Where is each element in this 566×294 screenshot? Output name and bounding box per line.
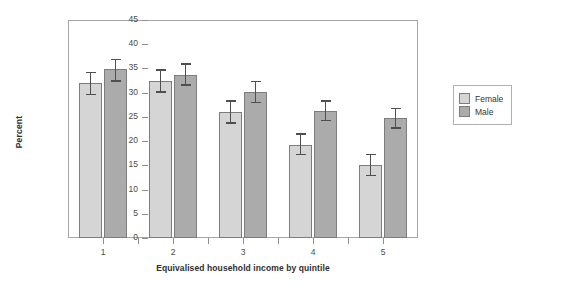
x-tick-label: 3 — [223, 247, 263, 257]
error-bar-cap-top — [156, 69, 166, 70]
error-bar-cap-top — [181, 63, 191, 64]
error-bar-stem — [230, 100, 231, 123]
error-bar-female-q2 — [149, 69, 172, 92]
error-bar-cap-top — [86, 72, 96, 73]
bar-female-q4 — [289, 145, 312, 238]
bar-male-q5 — [384, 118, 407, 238]
error-bar-cap-top — [391, 108, 401, 109]
bar-female-q5 — [359, 165, 382, 238]
error-bar-stem — [370, 154, 371, 176]
bar-male-q4 — [314, 111, 337, 238]
y-tick-mark — [142, 165, 148, 166]
legend-item-female: Female — [459, 93, 503, 104]
x-tick-label: 2 — [153, 247, 193, 257]
x-tick-mark-boundary — [138, 238, 139, 244]
error-bar-stem — [90, 72, 91, 95]
legend-label-male: Male — [475, 107, 493, 117]
error-bar-female-q1 — [79, 72, 102, 95]
y-tick-mark — [142, 20, 148, 21]
bar-female-q2 — [149, 81, 172, 238]
error-bar-female-q3 — [219, 100, 242, 123]
x-tick-mark — [313, 238, 314, 244]
y-tick-label: 5 — [133, 208, 138, 218]
x-tick-label: 5 — [363, 247, 403, 257]
y-tick-mark — [142, 141, 148, 142]
y-tick-mark — [142, 214, 148, 215]
legend-label-female: Female — [475, 94, 503, 104]
error-bar-male-q5 — [384, 108, 407, 129]
legend-swatch-male-icon — [459, 106, 470, 117]
error-bar-cap-bottom — [321, 120, 331, 121]
error-bar-stem — [325, 100, 326, 121]
error-bar-male-q2 — [174, 63, 197, 86]
x-tick-mark — [103, 238, 104, 244]
x-tick-mark — [243, 238, 244, 244]
bar-male-q2 — [174, 75, 197, 238]
x-tick-mark-boundary — [208, 238, 209, 244]
error-bar-cap-bottom — [86, 94, 96, 95]
error-bar-stem — [255, 81, 256, 104]
y-tick-mark — [142, 44, 148, 45]
error-bar-female-q5 — [359, 154, 382, 176]
legend-swatch-female-icon — [459, 93, 470, 104]
x-tick-mark-boundary — [278, 238, 279, 244]
legend-item-male: Male — [459, 106, 503, 117]
y-tick-label: 20 — [129, 135, 138, 145]
error-bar-cap-bottom — [391, 127, 401, 128]
error-bar-cap-bottom — [296, 154, 306, 155]
error-bar-cap-bottom — [251, 102, 261, 103]
bar-male-q1 — [104, 69, 127, 238]
error-bar-cap-top — [226, 100, 236, 101]
error-bar-cap-bottom — [366, 175, 376, 176]
x-tick-label: 4 — [293, 247, 333, 257]
y-tick-label: 25 — [129, 111, 138, 121]
error-bar-cap-bottom — [111, 80, 121, 81]
error-bar-stem — [160, 69, 161, 92]
y-axis-title: Percent — [14, 92, 24, 172]
error-bar-cap-top — [366, 154, 376, 155]
y-tick-label: 15 — [129, 159, 138, 169]
error-bar-cap-top — [296, 133, 306, 134]
y-tick-label: 30 — [129, 87, 138, 97]
y-tick-mark — [142, 117, 148, 118]
y-tick-label: 10 — [129, 184, 138, 194]
error-bar-male-q1 — [104, 59, 127, 82]
y-tick-label: 35 — [129, 62, 138, 72]
bar-male-q3 — [244, 92, 267, 238]
x-tick-label: 1 — [83, 247, 123, 257]
y-tick-label: 40 — [129, 38, 138, 48]
error-bar-cap-top — [251, 81, 261, 82]
y-tick-mark — [142, 68, 148, 69]
error-bar-female-q4 — [289, 133, 312, 155]
error-bar-stem — [395, 108, 396, 129]
x-tick-mark — [383, 238, 384, 244]
error-bar-stem — [185, 63, 186, 86]
y-tick-mark — [142, 190, 148, 191]
y-tick-mark — [142, 238, 148, 239]
error-bar-cap-bottom — [156, 91, 166, 92]
error-bar-cap-bottom — [226, 122, 236, 123]
y-tick-mark — [142, 93, 148, 94]
y-tick-label: 45 — [129, 14, 138, 24]
x-axis-title: Equivalised household income by quintile — [68, 263, 418, 273]
bar-female-q3 — [219, 112, 242, 238]
error-bar-stem — [115, 59, 116, 82]
bar-female-q1 — [79, 83, 102, 238]
error-bar-stem — [300, 133, 301, 155]
x-tick-mark — [173, 238, 174, 244]
x-tick-mark-boundary — [348, 238, 349, 244]
legend: Female Male — [453, 85, 512, 125]
error-bar-cap-top — [321, 100, 331, 101]
error-bar-male-q4 — [314, 100, 337, 121]
error-bar-cap-bottom — [181, 84, 191, 85]
error-bar-cap-top — [111, 59, 121, 60]
error-bar-male-q3 — [244, 81, 267, 104]
bar-chart: Percent 051015202530354045 12345 Equival… — [0, 0, 566, 294]
